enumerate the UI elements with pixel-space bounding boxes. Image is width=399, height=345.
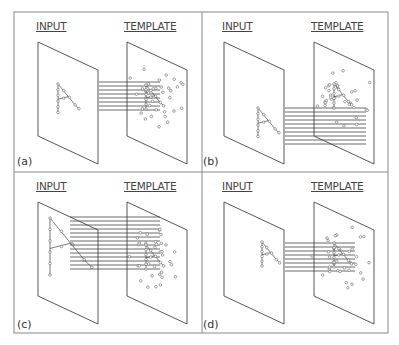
panel-b-tag: (b) bbox=[203, 155, 219, 168]
panel-d-input-plane bbox=[224, 202, 284, 324]
panel-b-template-plane bbox=[314, 42, 374, 164]
panel-b-input-plane bbox=[224, 42, 284, 164]
panel-d-tag: (d) bbox=[203, 318, 219, 331]
panel-a-template-label: TEMPLATE bbox=[124, 20, 176, 32]
template-matching-figure: INPUT TEMPLATE (a) INPUT TEMPLATE (b) IN… bbox=[0, 0, 399, 345]
panel-d-input-label: INPUT bbox=[222, 180, 252, 192]
panel-a-template-plane bbox=[127, 42, 187, 164]
panel-a-tag: (a) bbox=[17, 155, 32, 168]
panel-c-input-label: INPUT bbox=[36, 180, 66, 192]
panel-a-input-label: INPUT bbox=[36, 20, 66, 32]
panel-b-input-label: INPUT bbox=[222, 20, 252, 32]
diagram-art bbox=[0, 0, 399, 345]
panel-c-input-plane bbox=[38, 202, 98, 324]
panel-c-tag: (c) bbox=[17, 318, 32, 331]
panel-a-input-plane bbox=[38, 42, 98, 164]
panel-b-template-label: TEMPLATE bbox=[311, 20, 363, 32]
panel-c-template-plane bbox=[127, 202, 187, 324]
panel-d-template-label: TEMPLATE bbox=[311, 180, 363, 192]
panel-c-template-label: TEMPLATE bbox=[124, 180, 176, 192]
